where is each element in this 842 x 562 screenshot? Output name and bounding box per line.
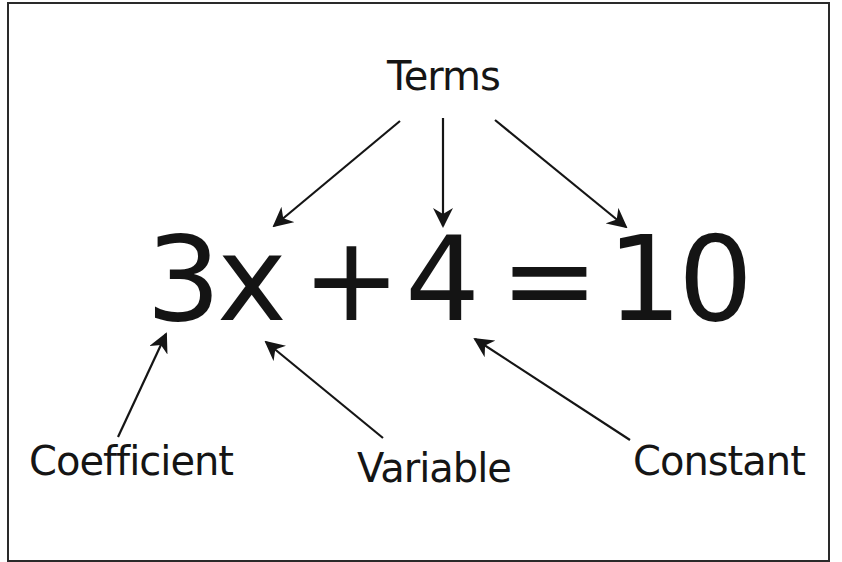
arrow-terms-to-10-icon (495, 120, 626, 227)
arrow-constant-to-4-icon (475, 339, 630, 440)
arrow-variable-to-x-icon (266, 342, 383, 438)
arrow-terms-to-3x-icon (274, 121, 400, 226)
arrow-coefficient-to-3-icon (118, 334, 166, 437)
